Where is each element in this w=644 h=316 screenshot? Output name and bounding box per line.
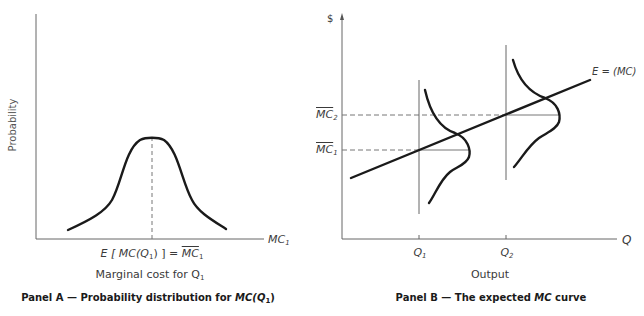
q2-label: Q2 bbox=[500, 247, 513, 260]
panel-b-caption-post: curve bbox=[552, 292, 587, 303]
q1-label-sub: 1 bbox=[422, 252, 426, 260]
mc1-axis-text: MC bbox=[268, 233, 285, 246]
panel-b-y-axis-label: $ bbox=[327, 14, 333, 24]
expected-mc-label: E = (MC) bbox=[592, 67, 636, 77]
mc1-label-text: MC bbox=[316, 143, 333, 156]
mean-label-mid: ) ] = bbox=[153, 247, 181, 260]
panel-a-caption: Panel A — Probability distribution for M… bbox=[21, 293, 275, 305]
mc2-label: MC2 bbox=[316, 109, 338, 122]
mc1-label-sub: 1 bbox=[333, 149, 337, 157]
mc1-label: MC1 bbox=[316, 144, 338, 157]
panel-a-x-axis-label: MC1 bbox=[268, 234, 290, 247]
panel-b-caption: Panel B — The expected MC curve bbox=[396, 293, 587, 303]
panel-a-caption-text: Panel A — Probability distribution for bbox=[21, 292, 235, 303]
q2-label-text: Q bbox=[500, 246, 509, 259]
panel-a-x-title-text: Marginal cost for Q bbox=[96, 268, 200, 281]
mean-label-rhs: MC bbox=[182, 247, 199, 260]
panel-b-caption-italic: MC bbox=[534, 292, 551, 303]
panel-a-x-title: Marginal cost for Q1 bbox=[96, 269, 205, 282]
panel-a-graph bbox=[36, 14, 264, 239]
q2-label-sub: 2 bbox=[509, 252, 513, 260]
panel-a-y-axis-label: Probability bbox=[8, 99, 18, 152]
q2-distribution-curve bbox=[513, 60, 560, 167]
q1-label: Q1 bbox=[413, 247, 426, 260]
panel-b-graph bbox=[340, 13, 617, 239]
panel-a-mean-label: E [ MC(Q1) ] = MC1 bbox=[101, 248, 204, 261]
panel-a-caption-post: ) bbox=[270, 292, 275, 303]
panel-b-caption-text: Panel B — The expected bbox=[396, 292, 535, 303]
q1-distribution-curve bbox=[425, 90, 470, 203]
panel-b-y-axis-arrow bbox=[340, 13, 344, 20]
panel-a-probability-curve bbox=[68, 138, 226, 230]
mc1-axis-sub: 1 bbox=[285, 239, 289, 247]
panel-a-x-title-sub: 1 bbox=[200, 274, 204, 282]
panel-b-x-title: Output bbox=[471, 269, 509, 280]
panel-a-caption-italic: MC(Q bbox=[235, 292, 265, 303]
mc2-label-text: MC bbox=[316, 108, 333, 121]
mc2-label-sub: 2 bbox=[333, 114, 337, 122]
mean-label-lhs: E [ MC(Q bbox=[101, 247, 149, 260]
panel-b-x-axis-label: Q bbox=[622, 234, 631, 246]
mean-label-rhs-sub: 1 bbox=[199, 253, 203, 261]
q1-label-text: Q bbox=[413, 246, 422, 259]
